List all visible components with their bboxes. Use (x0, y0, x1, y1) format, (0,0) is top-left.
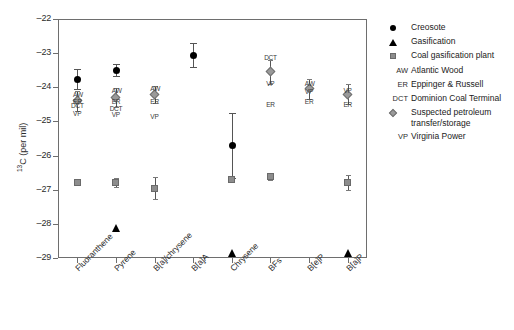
site-label-vp: VP (343, 87, 351, 94)
legend-circle-icon (378, 22, 408, 33)
legend-item-label: Creosote (411, 22, 446, 33)
legend-item: DCTDominion Coal Terminal (378, 93, 510, 107)
site-label-dct: DCT (264, 54, 277, 61)
y-axis-tick-mark (53, 258, 58, 259)
x-axis-tick-label: BFs (266, 256, 284, 274)
legend-item: Suspected petroleum transfer/storage (378, 107, 510, 121)
coal-gasification-plant-data-point (344, 179, 351, 186)
legend-item: Gasification (378, 36, 510, 50)
y-axis-tick-mark (53, 224, 58, 225)
y-axis-tick-mark (53, 190, 58, 191)
y-axis-tick-label: –24 (25, 81, 51, 91)
site-label-vp: VP (112, 111, 120, 118)
legend-text-symbol: ER (378, 79, 408, 90)
legend-item: EREppinger & Russell (378, 79, 510, 93)
y-axis-tick-label: –28 (25, 218, 51, 228)
y-axis-tick-label: –26 (25, 150, 51, 160)
legend-item: VPVirginia Power (378, 131, 510, 145)
error-bar-cap (113, 76, 120, 77)
legend-item-label: Suspected petroleum transfer/storage (411, 107, 514, 128)
legend-text-symbol: AW (378, 65, 408, 76)
error-bar-cap (346, 190, 351, 191)
site-label-vp: VP (150, 113, 158, 120)
site-label-dct: DCT (71, 102, 84, 109)
y-axis-tick-mark (53, 87, 58, 88)
coal-gasification-plant-data-point (112, 179, 119, 186)
legend-item: Creosote (378, 22, 510, 36)
y-axis-tick-label: –27 (25, 184, 51, 194)
legend-item-label: Virginia Power (411, 131, 466, 142)
gasification-data-point (344, 249, 352, 257)
site-label-er: ER (305, 98, 314, 105)
error-bar-cap (74, 69, 81, 70)
y-axis-tick-mark (53, 156, 58, 157)
y-axis-tick-mark (53, 19, 58, 20)
legend-item-label: Atlantic Wood (411, 65, 463, 76)
site-label-aw: AW (150, 85, 160, 92)
coal-gasification-plant-data-point (74, 179, 81, 186)
y-axis-tick-label: –25 (25, 115, 51, 125)
legend-triangle-icon (378, 36, 408, 47)
y-axis-tick-label: –22 (25, 13, 51, 23)
site-label-aw: AW (73, 91, 83, 98)
legend-item-label: Eppinger & Russell (411, 79, 483, 90)
legend-item-label: Coal gasification plant (411, 50, 494, 61)
site-label-vp: VP (305, 88, 313, 95)
error-bar-cap (190, 67, 197, 68)
error-bar-cap (114, 187, 119, 188)
site-label-vp: VP (266, 80, 274, 87)
site-label-aw: AW (305, 80, 315, 87)
y-axis-tick-mark (53, 121, 58, 122)
error-bar-cap (346, 175, 351, 176)
site-label-er: ER (343, 101, 352, 108)
y-axis-tick-label: –29 (25, 252, 51, 262)
error-bar-cap (113, 64, 120, 65)
chart-container: 13C (per mil) –22–23–24–25–26–27–28–29 F… (0, 0, 514, 330)
gasification-data-point (112, 224, 120, 232)
legend-item-label: Dominion Coal Terminal (411, 93, 501, 104)
error-bar-cap (346, 84, 351, 85)
error-bar-cap (229, 113, 236, 114)
legend-diamond-icon (378, 107, 408, 118)
site-label-er: ER (266, 101, 275, 108)
coal-gasification-plant-data-point (267, 173, 274, 180)
legend-text-symbol: VP (378, 131, 408, 142)
legend-item: AWAtlantic Wood (378, 65, 510, 79)
coal-gasification-plant-data-point (228, 176, 235, 183)
y-axis-tick-mark (53, 53, 58, 54)
error-bar-cap (153, 199, 158, 200)
error-bar-cap (190, 43, 197, 44)
coal-gasification-plant-data-point (151, 185, 158, 192)
legend-item-label: Gasification (411, 36, 455, 47)
error-bar-cap (268, 180, 273, 181)
legend-item: Coal gasification plant (378, 50, 510, 64)
legend-square-icon (378, 50, 408, 61)
legend-text-symbol: DCT (378, 93, 408, 104)
site-label-vp: VP (73, 110, 81, 117)
site-label-er: ER (150, 98, 159, 105)
y-axis-title: 13C (per mil) (16, 122, 28, 171)
plot-area (58, 19, 367, 258)
error-bar-cap (153, 177, 158, 178)
gasification-data-point (228, 249, 236, 257)
creosote-data-point (190, 52, 197, 59)
site-label-aw: AW (112, 87, 122, 94)
y-axis-tick-label: –23 (25, 47, 51, 57)
